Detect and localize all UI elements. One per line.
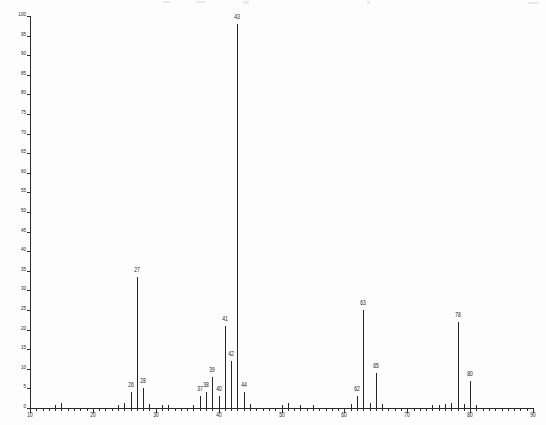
x-axis-minor-tick — [99, 409, 100, 411]
x-axis-minor-tick — [370, 409, 371, 411]
y-axis-tick-label: 15 — [8, 345, 26, 351]
peak-label-80: 80 — [461, 371, 479, 378]
x-axis-minor-tick — [483, 409, 484, 411]
x-axis-minor-tick — [175, 409, 176, 411]
x-axis-minor-tick — [527, 409, 528, 411]
peak-label-28: 28 — [134, 378, 152, 385]
y-axis-tick — [27, 192, 30, 193]
y-axis-tick — [27, 16, 30, 17]
peak-stem — [61, 403, 62, 408]
peak-label-43: 43 — [228, 14, 246, 21]
peak-stem-labeled — [219, 396, 220, 408]
x-axis-minor-tick — [105, 409, 106, 411]
peak-label-65: 65 — [367, 363, 385, 370]
y-axis-tick-label: 50 — [8, 208, 26, 214]
x-axis-minor-tick — [489, 409, 490, 411]
x-axis-minor-tick — [288, 409, 289, 411]
peak-stem — [168, 405, 169, 408]
x-axis-tick-label: 90 — [524, 413, 542, 419]
x-axis-tick-label: 10 — [21, 413, 39, 419]
peak-stem — [300, 405, 301, 408]
x-axis-minor-tick — [168, 409, 169, 411]
y-axis-tick — [27, 310, 30, 311]
y-axis-tick-label: 35 — [8, 267, 26, 273]
y-axis-tick-label: 5 — [8, 384, 26, 390]
y-axis-tick — [27, 330, 30, 331]
x-axis-minor-tick — [357, 409, 358, 411]
peak-stem — [282, 405, 283, 408]
x-axis-minor-tick — [55, 409, 56, 411]
y-axis-tick-label: 20 — [8, 326, 26, 332]
peak-stem — [118, 405, 119, 408]
peak-stem-labeled — [131, 392, 132, 408]
peak-label-63: 63 — [354, 300, 372, 307]
x-axis-tick-label: 70 — [398, 413, 416, 419]
x-axis-minor-tick — [162, 409, 163, 411]
y-axis-tick — [27, 290, 30, 291]
peak-label-27: 27 — [128, 267, 146, 274]
x-axis-minor-tick — [495, 409, 496, 411]
x-axis-tick-label: 30 — [147, 413, 165, 419]
y-axis-tick — [27, 134, 30, 135]
x-axis-minor-tick — [395, 409, 396, 411]
x-axis-minor-tick — [319, 409, 320, 411]
x-axis-minor-tick — [43, 409, 44, 411]
y-axis-tick-label: 95 — [8, 32, 26, 38]
x-axis-minor-tick — [376, 409, 377, 411]
x-axis-minor-tick — [131, 409, 132, 411]
x-axis-minor-tick — [275, 409, 276, 411]
y-axis-tick-label: 25 — [8, 306, 26, 312]
peak-stem — [445, 404, 446, 408]
x-axis-tick-label: 20 — [84, 413, 102, 419]
x-axis-minor-tick — [332, 409, 333, 411]
x-axis-minor-tick — [269, 409, 270, 411]
y-axis-tick-label: 75 — [8, 110, 26, 116]
peak-stem — [149, 404, 150, 408]
x-axis-minor-tick — [137, 409, 138, 411]
x-axis-minor-tick — [206, 409, 207, 411]
y-axis-tick — [27, 232, 30, 233]
x-axis-minor-tick — [68, 409, 69, 411]
y-axis-tick-label: 45 — [8, 228, 26, 234]
x-axis-minor-tick — [237, 409, 238, 411]
y-axis-tick-label: 65 — [8, 149, 26, 155]
y-axis-tick-label: 30 — [8, 286, 26, 292]
x-axis-minor-tick — [502, 409, 503, 411]
x-axis-minor-tick — [112, 409, 113, 411]
peak-stem-labeled — [458, 322, 459, 408]
x-axis-minor-tick — [256, 409, 257, 411]
x-axis-minor-tick — [382, 409, 383, 411]
x-axis-tick-label: 60 — [335, 413, 353, 419]
spectrum-plot: 0510152025303540455055606570758085909510… — [0, 0, 546, 425]
x-axis-minor-tick — [225, 409, 226, 411]
x-axis-minor-tick — [80, 409, 81, 411]
y-axis-tick — [27, 388, 30, 389]
x-axis-minor-tick — [351, 409, 352, 411]
y-axis-tick-label: 70 — [8, 130, 26, 136]
y-axis-tick — [27, 369, 30, 370]
x-axis-minor-tick — [401, 409, 402, 411]
peak-stem — [464, 404, 465, 408]
peak-stem — [55, 405, 56, 408]
x-axis-minor-tick — [212, 409, 213, 411]
y-axis-line — [30, 16, 31, 409]
peak-stem-labeled — [363, 310, 364, 408]
y-axis-tick — [27, 114, 30, 115]
x-axis-minor-tick — [388, 409, 389, 411]
x-axis-minor-tick — [464, 409, 465, 411]
x-axis-minor-tick — [514, 409, 515, 411]
peak-stem-labeled — [225, 326, 226, 408]
x-axis-minor-tick — [451, 409, 452, 411]
peak-label-78: 78 — [449, 312, 467, 319]
x-axis-minor-tick — [149, 409, 150, 411]
peak-stem — [313, 405, 314, 408]
x-axis-minor-tick — [508, 409, 509, 411]
x-axis-minor-tick — [181, 409, 182, 411]
x-axis-minor-tick — [263, 409, 264, 411]
peak-stem-labeled — [357, 396, 358, 408]
peak-label-42: 42 — [222, 351, 240, 358]
x-axis-minor-tick — [313, 409, 314, 411]
y-axis-tick — [27, 349, 30, 350]
x-axis-minor-tick — [307, 409, 308, 411]
peak-stem-labeled — [231, 361, 232, 408]
